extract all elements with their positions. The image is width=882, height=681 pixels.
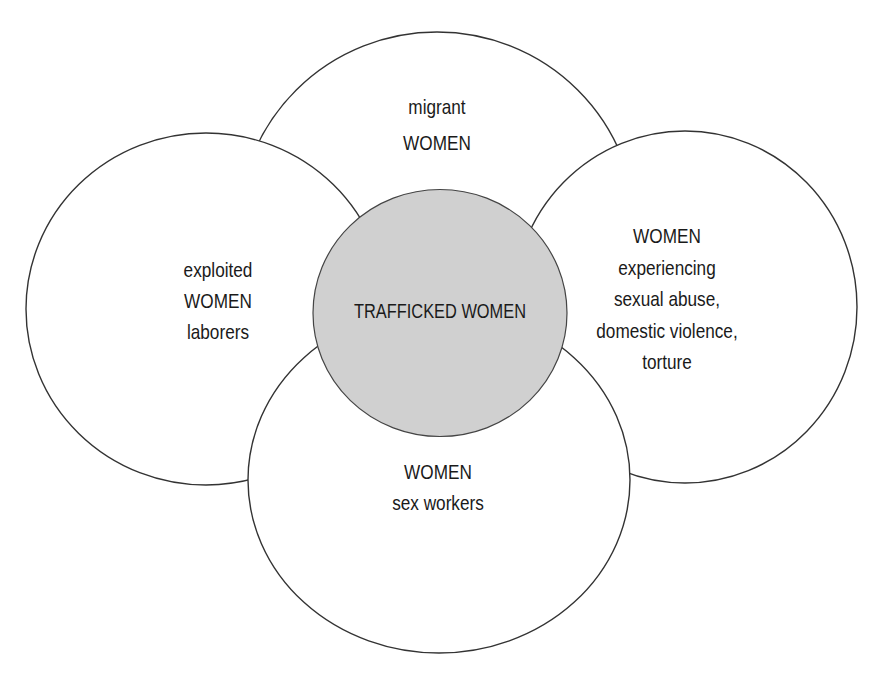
label-line: migrant xyxy=(408,96,466,119)
label-exploited-women-laborers: exploited WOMEN laborers xyxy=(184,259,253,344)
label-line: WOMEN xyxy=(184,290,252,313)
label-line: exploited xyxy=(184,259,253,282)
label-trafficked-women: TRAFFICKED WOMEN xyxy=(354,299,526,322)
label-line: laborers xyxy=(187,321,249,344)
label-line: domestic violence, xyxy=(596,320,737,343)
label-line: WOMEN xyxy=(633,225,701,248)
center-label: TRAFFICKED WOMEN xyxy=(354,299,526,322)
label-line: torture xyxy=(642,351,692,374)
label-line: experiencing xyxy=(618,257,715,280)
label-line: sex workers xyxy=(392,492,484,515)
venn-diagram: migrant WOMEN exploited WOMEN laborers W… xyxy=(0,0,882,681)
label-line: sexual abuse, xyxy=(614,288,720,311)
label-line: WOMEN xyxy=(404,461,472,484)
label-line: WOMEN xyxy=(403,132,471,155)
